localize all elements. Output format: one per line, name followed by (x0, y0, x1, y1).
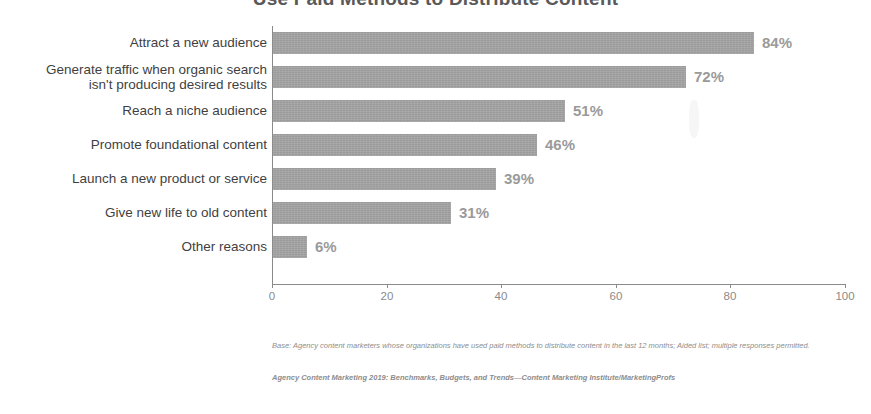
bar-row: Other reasons 6% (0, 236, 871, 258)
category-label: Launch a new product or service (7, 171, 267, 186)
x-tick (501, 284, 502, 288)
x-tick-label: 40 (481, 290, 521, 302)
bar-promote-foundational-content (273, 134, 537, 156)
x-axis-line (272, 284, 845, 285)
x-tick-label: 0 (252, 290, 292, 302)
bar-row: Generate traffic when organic search isn… (0, 66, 871, 88)
bar-value-label: 72% (694, 68, 724, 85)
bar-value-label: 51% (573, 102, 603, 119)
plot-area: Attract a new audience 84% Generate traf… (0, 26, 871, 298)
x-tick (272, 284, 273, 288)
x-tick (387, 284, 388, 288)
bar-give-new-life-to-old-content (273, 202, 451, 224)
chart-title: Use Paid Methods to Distribute Content (0, 0, 871, 10)
bar-value-label: 6% (315, 238, 337, 255)
bar-value-label: 84% (762, 34, 792, 51)
bar-reach-a-niche-audience (273, 100, 565, 122)
bar-row: Attract a new audience 84% (0, 32, 871, 54)
bar-row: Promote foundational content 46% (0, 134, 871, 156)
x-tick (616, 284, 617, 288)
bar-value-label: 39% (504, 170, 534, 187)
bar-launch-a-new-product-or-service (273, 168, 496, 190)
chart-source: Agency Content Marketing 2019: Benchmark… (272, 372, 832, 383)
x-tick-label: 100 (825, 290, 865, 302)
category-label: Other reasons (7, 239, 267, 254)
bar-generate-traffic (273, 66, 686, 88)
category-label: Promote foundational content (7, 137, 267, 152)
bar-value-label: 46% (545, 136, 575, 153)
category-label: Give new life to old content (7, 205, 267, 220)
bar-value-label: 31% (459, 204, 489, 221)
category-label: Reach a niche audience (7, 103, 267, 118)
bar-other-reasons (273, 236, 307, 258)
x-tick-label: 20 (367, 290, 407, 302)
x-tick (845, 284, 846, 288)
bar-row: Launch a new product or service 39% (0, 168, 871, 190)
x-tick (730, 284, 731, 288)
category-label: Attract a new audience (7, 35, 267, 50)
bar-row: Reach a niche audience 51% (0, 100, 871, 122)
bar-row: Give new life to old content 31% (0, 202, 871, 224)
category-label: Generate traffic when organic search isn… (7, 62, 267, 92)
x-tick-label: 80 (710, 290, 750, 302)
scan-artifact (689, 100, 699, 138)
x-tick-label: 60 (596, 290, 636, 302)
chart-footnote: Base: Agency content marketers whose org… (272, 340, 817, 352)
bar-attract-a-new-audience (273, 32, 754, 54)
